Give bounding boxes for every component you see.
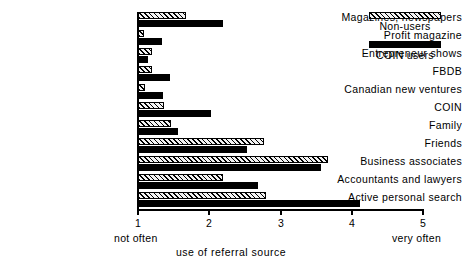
x-tick-label-2: 2 [194,217,224,229]
bar-coinusers-active-personal-search [138,200,360,207]
legend: Non-users COIN users [362,12,448,70]
bar-coinusers-magazines-newspapers [138,20,223,27]
x-tick-label-1: 1 [123,217,153,229]
x-tick-1 [137,210,139,215]
legend-label-coin-users: COIN users [362,49,448,61]
legend-swatch-solid-icon [369,41,441,48]
legend-label-non-users: Non-users [362,20,448,32]
x-tick-label-3: 3 [266,217,296,229]
x-axis-title: use of referral source [0,246,462,258]
bar-coinusers-accountants-lawyers [138,182,258,189]
bar-coinusers-profit-magazine [138,38,162,45]
bar-nonusers-canadian-new-ventures [138,84,145,91]
x-tick-label-5: 5 [408,217,438,229]
bar-nonusers-entrepreneur-shows [138,48,152,55]
y-axis-line [137,12,139,210]
legend-entry-non-users: Non-users [362,12,448,32]
legend-swatch-hatched-icon [369,12,441,19]
bar-coinusers-fbdb [138,74,170,81]
bar-nonusers-business-associates [138,156,328,163]
legend-entry-coin-users: COIN users [362,41,448,61]
bar-nonusers-accountants-lawyers [138,174,223,181]
bar-nonusers-active-personal-search [138,192,266,199]
bar-nonusers-magazines-newspapers [138,12,186,19]
bar-coinusers-entrepreneur-shows [138,56,148,63]
bar-coinusers-friends [138,146,247,153]
x-tick-4 [351,210,353,215]
bar-nonusers-family [138,120,171,127]
bar-coinusers-canadian-new-ventures [138,92,163,99]
bar-coinusers-coin [138,110,211,117]
x-tick-3 [280,210,282,215]
x-tick-label-4: 4 [337,217,367,229]
bar-nonusers-coin [138,102,164,109]
x-tick-5 [422,210,424,215]
bar-coinusers-family [138,128,178,135]
bar-nonusers-fbdb [138,66,152,73]
x-tick-2 [208,210,210,215]
bar-nonusers-friends [138,138,264,145]
x-axis-anchor-high: very often [392,232,441,244]
x-axis-anchor-low: not often [114,232,158,244]
bar-nonusers-profit-magazine [138,30,144,37]
horizontal-bar-chart: Magazines, newspapers Profit magazine En… [0,0,462,271]
bar-coinusers-business-associates [138,164,321,171]
